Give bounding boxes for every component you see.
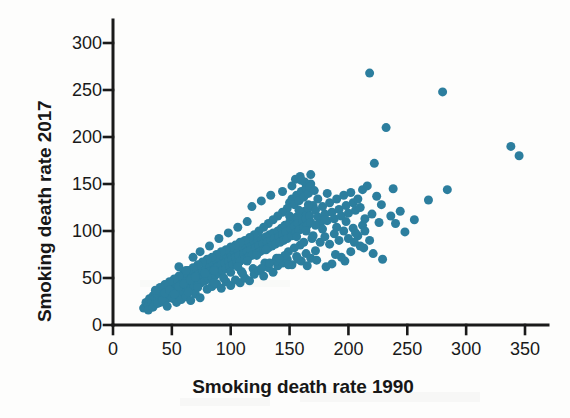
data-point: [219, 274, 228, 283]
data-point: [278, 187, 287, 196]
data-point: [163, 302, 172, 311]
data-point: [375, 218, 384, 227]
data-point: [292, 232, 301, 241]
data-point: [360, 227, 369, 236]
data-point: [377, 200, 386, 209]
data-point: [243, 257, 252, 266]
data-point: [294, 206, 303, 215]
data-point: [257, 264, 266, 273]
data-point: [382, 123, 391, 132]
data-point: [196, 293, 205, 302]
data-point: [196, 247, 205, 256]
data-point: [193, 283, 202, 292]
data-point: [443, 185, 452, 194]
data-point: [351, 228, 360, 237]
data-point: [274, 254, 283, 263]
data-point: [285, 211, 294, 220]
data-point: [243, 217, 252, 226]
data-point: [506, 142, 515, 151]
data-point: [365, 236, 374, 245]
data-point: [233, 262, 242, 271]
data-point: [262, 245, 271, 254]
data-point: [293, 255, 302, 264]
data-point: [391, 219, 400, 228]
data-point: [424, 195, 433, 204]
data-point: [210, 266, 219, 275]
data-point: [346, 188, 355, 197]
data-point: [306, 170, 315, 179]
data-point: [322, 262, 331, 271]
data-point: [363, 181, 372, 190]
data-point: [359, 243, 368, 252]
data-point: [287, 181, 296, 190]
data-point: [310, 186, 319, 195]
data-point: [257, 196, 266, 205]
data-point: [331, 250, 340, 259]
data-point: [247, 202, 256, 211]
data-point: [410, 215, 419, 224]
data-point: [191, 273, 200, 282]
data-point: [210, 278, 219, 287]
data-point: [365, 69, 374, 78]
data-point: [438, 87, 447, 96]
data-point: [311, 221, 320, 230]
data-point: [205, 242, 214, 251]
data-point: [151, 286, 160, 295]
data-point: [353, 195, 362, 204]
data-point: [340, 257, 349, 266]
data-point: [252, 251, 261, 260]
data-point: [350, 238, 359, 247]
data-point: [170, 289, 179, 298]
data-point: [320, 215, 329, 224]
data-point: [515, 151, 524, 160]
data-point: [342, 217, 351, 226]
data-point: [284, 260, 293, 269]
data-point: [297, 176, 306, 185]
data-point: [370, 159, 379, 168]
data-point: [325, 240, 334, 249]
data-point: [224, 228, 233, 237]
data-point: [389, 184, 398, 193]
data-point: [312, 256, 321, 265]
data-point: [302, 227, 311, 236]
data-point: [313, 195, 322, 204]
data-points-layer: [139, 69, 524, 315]
data-point: [265, 258, 274, 267]
data-point: [396, 207, 405, 216]
data-point: [233, 223, 242, 232]
data-point: [356, 203, 365, 212]
data-point: [184, 288, 193, 297]
data-point: [303, 261, 312, 270]
data-point: [346, 247, 355, 256]
data-point: [369, 249, 378, 258]
data-point: [290, 243, 299, 252]
data-point: [372, 192, 381, 201]
data-point: [189, 253, 198, 262]
data-point: [299, 238, 308, 247]
data-point: [226, 268, 235, 277]
data-point: [378, 255, 387, 264]
data-point: [200, 269, 209, 278]
data-point: [181, 266, 190, 275]
scatter-plot-canvas: [0, 0, 570, 418]
data-point: [214, 234, 223, 243]
data-point: [367, 210, 376, 219]
scatter-chart-figure: Smoking death rate 2017 Smoking death ra…: [0, 0, 570, 418]
data-point: [266, 191, 275, 200]
data-point: [335, 236, 344, 245]
data-point: [400, 227, 409, 236]
data-point: [304, 200, 313, 209]
data-point: [311, 246, 320, 255]
data-point: [323, 189, 332, 198]
data-point: [386, 211, 395, 220]
data-point: [332, 223, 341, 232]
